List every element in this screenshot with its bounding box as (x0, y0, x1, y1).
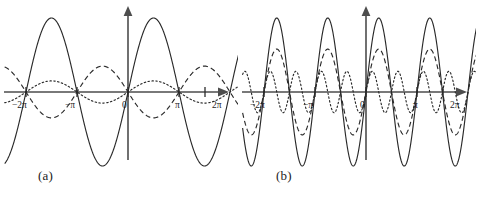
xtick-label-pi: π (413, 100, 418, 110)
panel-b: −2π −π 0 π 2π (b) (238, 0, 476, 205)
panel-a-plot: −2π −π 0 π 2π (0, 0, 238, 172)
panel-b-caption: (b) (276, 168, 292, 184)
xtick-label-zero: 0 (360, 100, 365, 110)
xtick-label-negpi: −π (65, 100, 75, 110)
x-axis-arrow-icon (218, 88, 229, 97)
xtick-label-2pi: 2π (212, 100, 222, 110)
panel-a-svg: −2π −π 0 π 2π (0, 0, 238, 172)
xtick-label-2pi: 2π (450, 100, 460, 110)
y-axis-arrow-icon (124, 6, 133, 16)
xtick-label-negpi: −π (303, 100, 313, 110)
xtick-label-neg2pi: −2π (12, 100, 27, 110)
figure-root: −2π −π 0 π 2π (a) (0, 0, 477, 205)
panel-b-svg: −2π −π 0 π 2π (238, 0, 476, 172)
xtick-label-neg2pi: −2π (250, 100, 265, 110)
panel-b-plot: −2π −π 0 π 2π (238, 0, 476, 172)
panel-a-axes (4, 6, 229, 160)
panel-a-tick-labels: −2π −π 0 π 2π (12, 100, 222, 110)
panel-b-axes (242, 6, 467, 160)
y-axis-arrow-icon (362, 6, 371, 16)
xtick-label-pi: π (175, 100, 180, 110)
x-axis-arrow-icon (456, 88, 467, 97)
xtick-label-zero: 0 (122, 100, 127, 110)
panel-a: −2π −π 0 π 2π (a) (0, 0, 238, 205)
panel-a-caption: (a) (38, 168, 53, 184)
